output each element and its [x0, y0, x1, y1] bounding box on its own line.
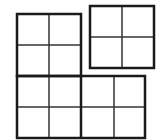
top-right-square	[90, 6, 154, 68]
grid-squares-diagram	[0, 0, 166, 140]
bottom-rectangle	[17, 76, 145, 138]
top-left-square	[17, 14, 81, 76]
